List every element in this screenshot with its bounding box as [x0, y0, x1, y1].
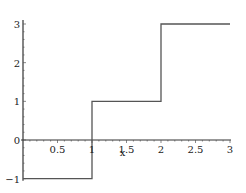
step-line [23, 24, 230, 179]
x-axis-label: x [120, 147, 126, 158]
x-tick-label: 3 [227, 144, 233, 155]
axes [21, 20, 231, 181]
y-tick-label: 3 [14, 19, 20, 30]
x-tick-label: 1 [89, 144, 95, 155]
x-tick-label: 2 [158, 144, 164, 155]
y-tick-label: 0 [14, 135, 20, 146]
x-tick-label: 2.5 [188, 144, 204, 155]
x-tick-label: 0.5 [50, 144, 66, 155]
step-function-plot: 0.511.522.53−10123x [0, 0, 246, 193]
y-tick-label: −1 [5, 174, 20, 185]
y-tick-label: 2 [14, 58, 20, 69]
y-tick-label: 1 [14, 96, 20, 107]
plot-series [23, 24, 230, 179]
